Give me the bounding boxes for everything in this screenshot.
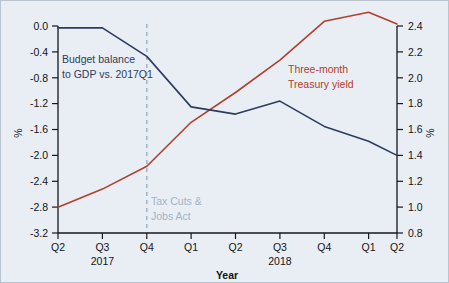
annotation-tax-cuts-line2: Jobs Act: [151, 210, 191, 222]
left-axis-tick-labels: 0.0 -0.4 -0.8 -1.2 -1.6 -2.0 -2.4 -2.8 -…: [30, 20, 48, 239]
x-tick-label: Q3: [95, 241, 109, 253]
annotation-tax-cuts-line1: Tax Cuts &: [151, 195, 202, 207]
x-tick-label: Q4: [140, 241, 154, 253]
left-tick-label: -1.6: [30, 123, 48, 135]
x-tick-label: Q3: [273, 241, 287, 253]
line-chart-plot: 0.0 -0.4 -0.8 -1.2 -1.6 -2.0 -2.4 -2.8 -…: [0, 0, 449, 283]
left-tick-label: -0.8: [30, 72, 48, 84]
right-tick-label: 2.2: [408, 46, 423, 58]
left-tick-label: -2.8: [30, 201, 48, 213]
right-tick-label: 0.8: [408, 227, 423, 239]
x-tick-label: Q2: [228, 241, 242, 253]
x-tick-label: Q1: [184, 241, 198, 253]
right-tick-label: 2.0: [408, 72, 423, 84]
x-axis-tick-labels: Q2 Q3 Q4 Q1 Q2 Q3 Q4 Q1 Q2: [51, 241, 404, 253]
series-line-three-month-treasury-yield: [58, 12, 397, 207]
y-axis-left-title: %: [12, 129, 24, 138]
series-label-budget-balance-line1: Budget balance: [62, 53, 135, 65]
right-tick-label: 1.2: [408, 175, 423, 187]
x-tick-label: Q2: [51, 241, 65, 253]
x-tick-label: Q4: [317, 241, 331, 253]
left-tick-label: -0.4: [30, 46, 48, 58]
x-axis-ticks: [58, 233, 397, 239]
left-tick-label: -2.4: [30, 175, 48, 187]
series-label-treasury-yield-line1: Three-month: [288, 63, 348, 75]
left-axis-ticks: [52, 26, 58, 233]
x-group-label-2017: 2017: [91, 255, 115, 267]
chart-container: 0.0 -0.4 -0.8 -1.2 -1.6 -2.0 -2.4 -2.8 -…: [0, 0, 449, 283]
series-label-treasury-yield-line2: Treasury yield: [288, 78, 354, 90]
right-axis-tick-labels: 2.4 2.2 2.0 1.8 1.6 1.4 1.2 1.0 0.8: [408, 20, 423, 239]
left-tick-label: 0.0: [33, 20, 48, 32]
series-label-budget-balance-line2: to GDP vs. 2017Q1: [62, 68, 153, 80]
left-tick-label: -1.2: [30, 97, 48, 109]
right-tick-label: 2.4: [408, 20, 423, 32]
x-axis-title: Year: [216, 269, 238, 281]
left-tick-label: -2.0: [30, 149, 48, 161]
x-tick-label: Q2: [390, 241, 404, 253]
left-tick-label: -3.2: [30, 227, 48, 239]
right-tick-label: 1.6: [408, 123, 423, 135]
y-axis-right-title: %: [424, 129, 436, 138]
right-tick-label: 1.8: [408, 97, 423, 109]
x-tick-label: Q1: [362, 241, 376, 253]
right-axis-ticks: [397, 26, 403, 233]
right-tick-label: 1.0: [408, 201, 423, 213]
series-line-budget-balance-to-gdp: [58, 28, 397, 155]
x-group-label-2018: 2018: [268, 255, 292, 267]
right-tick-label: 1.4: [408, 149, 423, 161]
